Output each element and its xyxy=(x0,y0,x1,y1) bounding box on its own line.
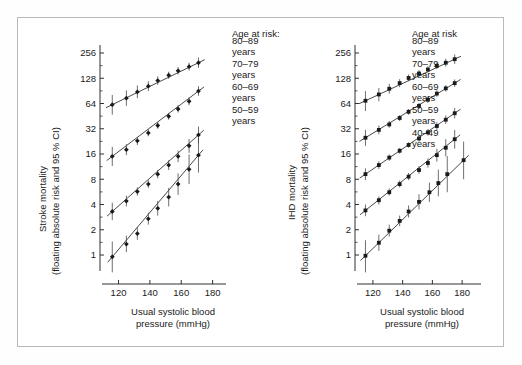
legend-item-unit: years xyxy=(412,138,435,149)
data-point-marker xyxy=(364,136,368,140)
data-point-marker xyxy=(135,231,140,236)
data-point-marker xyxy=(398,116,402,120)
x-tick-label: 120 xyxy=(365,287,381,298)
data-point-marker xyxy=(146,216,151,221)
data-point-marker xyxy=(436,181,440,185)
ihd-x-axis-title-line2: pressure (mmHg) xyxy=(357,318,487,330)
x-tick-label: 160 xyxy=(173,287,189,298)
data-point-marker xyxy=(444,86,448,90)
y-tick-label: 4 xyxy=(91,199,96,210)
stroke-x-axis-title-line1: Usual systolic blood xyxy=(108,306,238,318)
x-tick-label: 180 xyxy=(205,287,221,298)
stroke-y-axis-title-line1: Stroke mortality xyxy=(37,166,48,232)
legend-item-unit: years xyxy=(232,115,255,126)
data-point-marker xyxy=(407,175,411,179)
y-tick-label: 128 xyxy=(80,73,96,84)
panel-stroke-mortality: 124816326412825612014016018080–89years70… xyxy=(0,0,261,365)
data-point-marker xyxy=(387,190,391,194)
data-point-marker xyxy=(377,241,381,245)
legend-item-unit: years xyxy=(412,92,435,103)
legend-item-range: 70–79 xyxy=(412,58,438,69)
data-point-marker xyxy=(187,143,192,148)
data-point-marker xyxy=(377,93,381,97)
data-point-marker xyxy=(398,81,402,85)
legend-item-range: 40–49 xyxy=(412,127,438,138)
figure-root: 124816326412825612014016018080–89years70… xyxy=(0,0,522,365)
y-tick-label: 1 xyxy=(91,249,96,260)
y-tick-label: 16 xyxy=(85,148,96,159)
y-tick-label: 4 xyxy=(346,199,351,210)
data-point-marker xyxy=(444,61,448,65)
data-point-marker xyxy=(417,200,421,204)
data-point-marker xyxy=(407,210,411,214)
data-point-marker xyxy=(124,96,129,101)
data-point-marker xyxy=(387,156,391,160)
data-point-marker xyxy=(444,146,448,150)
data-point-marker xyxy=(166,195,171,200)
data-point-marker xyxy=(124,199,129,204)
data-point-marker xyxy=(196,60,201,65)
data-point-marker xyxy=(426,161,430,165)
ihd-legend-title: Age at risk xyxy=(412,28,457,39)
data-point-marker xyxy=(462,158,466,162)
series-group xyxy=(360,142,468,273)
data-point-marker xyxy=(146,131,151,136)
y-tick-label: 64 xyxy=(340,98,351,109)
y-tick-label: 64 xyxy=(85,98,96,109)
data-point-marker xyxy=(364,254,368,258)
data-point-marker xyxy=(377,163,381,167)
y-tick-label: 256 xyxy=(335,47,351,58)
data-point-marker xyxy=(428,190,432,194)
data-point-marker xyxy=(407,110,411,114)
data-point-marker xyxy=(155,206,160,211)
series-group xyxy=(106,58,205,115)
stroke-x-axis-title-line2: pressure (mmHg) xyxy=(108,318,238,330)
series-group xyxy=(359,79,460,145)
data-point-marker xyxy=(146,182,151,187)
series-group xyxy=(360,130,460,216)
legend-item-unit: years xyxy=(412,69,435,80)
legend-item-range: 70–79 xyxy=(232,58,258,69)
panel-ihd-mortality: 124816326412825612014016018080–89years70… xyxy=(261,0,522,365)
data-point-marker xyxy=(435,92,439,96)
y-tick-label: 2 xyxy=(91,224,96,235)
x-tick-label: 160 xyxy=(424,287,440,298)
y-tick-label: 256 xyxy=(80,47,96,58)
series-group xyxy=(107,86,204,166)
data-point-marker xyxy=(377,198,381,202)
stroke-y-axis-title-line2: (floating absolute risk and 95 % CI) xyxy=(50,127,61,275)
series-group xyxy=(359,54,461,111)
ihd-x-axis-title-line1: Usual systolic blood xyxy=(357,306,487,318)
data-point-marker xyxy=(364,99,368,103)
x-tick-label: 180 xyxy=(454,287,470,298)
legend-item-range: 60–69 xyxy=(232,81,258,92)
ihd-y-axis-title-line2: (floating absolute risk and 95 % CI) xyxy=(299,127,310,275)
x-tick-label: 140 xyxy=(395,287,411,298)
data-point-marker xyxy=(398,149,402,153)
y-tick-label: 32 xyxy=(85,123,96,134)
data-point-marker xyxy=(407,143,411,147)
legend-item-unit: years xyxy=(232,46,255,57)
data-point-marker xyxy=(155,123,160,128)
data-point-marker xyxy=(407,76,411,80)
series-group xyxy=(108,138,203,273)
data-point-marker xyxy=(453,111,457,115)
data-point-marker xyxy=(453,137,457,141)
data-point-marker xyxy=(124,147,129,152)
data-point-marker xyxy=(387,123,391,127)
series-group xyxy=(360,108,461,180)
data-point-marker xyxy=(445,172,449,176)
data-point-marker xyxy=(176,182,181,187)
y-tick-label: 8 xyxy=(91,174,96,185)
data-point-marker xyxy=(155,78,160,83)
y-tick-label: 8 xyxy=(346,174,351,185)
data-point-marker xyxy=(387,229,391,233)
legend-item-unit: years xyxy=(412,115,435,126)
data-point-marker xyxy=(453,81,457,85)
data-point-marker xyxy=(398,219,402,223)
data-point-marker xyxy=(444,118,448,122)
data-point-marker xyxy=(176,68,181,73)
y-tick-label: 16 xyxy=(340,148,351,159)
legend-item-range: 60–69 xyxy=(412,81,438,92)
ihd-y-axis-title-line1: IHD mortality xyxy=(286,165,297,220)
